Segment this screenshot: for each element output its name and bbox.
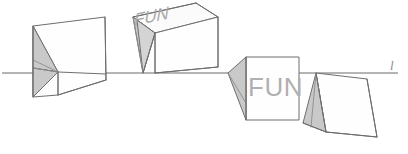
cube-2: FUN — [133, 2, 218, 73]
cube-1 — [33, 17, 106, 97]
cube-4 — [303, 73, 377, 137]
diagram-canvas: FUN FUN l — [0, 0, 408, 154]
cube-rotation-diagram: FUN FUN l — [0, 0, 408, 154]
cube-3: FUN — [228, 57, 303, 120]
horizon-line-label: l — [390, 58, 394, 73]
cube-3-fun-text: FUN — [248, 72, 303, 102]
